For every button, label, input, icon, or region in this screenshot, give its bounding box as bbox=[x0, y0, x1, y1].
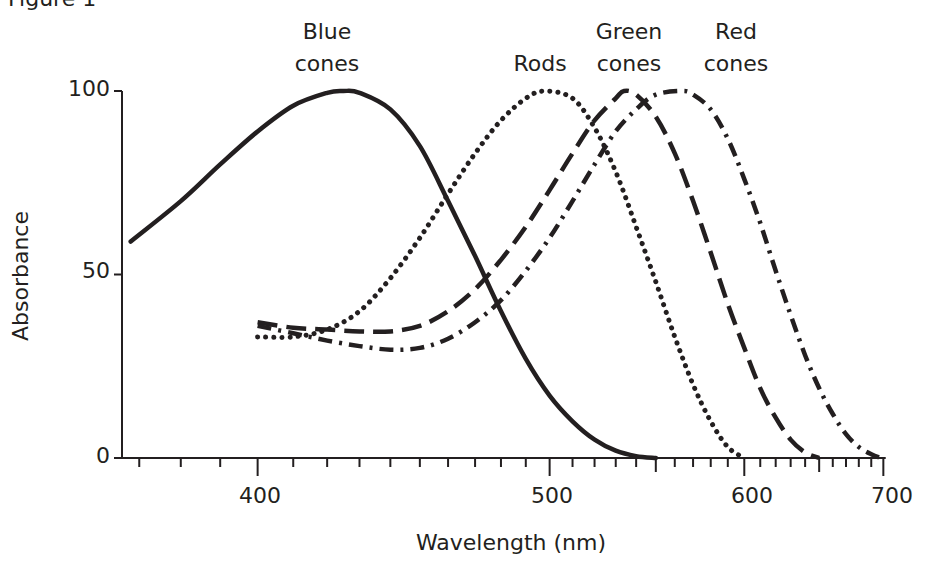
x-tick-label-600: 600 bbox=[722, 483, 782, 508]
y-tick-label-100: 100 bbox=[62, 76, 110, 101]
absorbance-chart bbox=[0, 0, 927, 577]
curve-green-cones bbox=[258, 91, 820, 458]
y-axis-title: Absorbance bbox=[8, 206, 36, 346]
curve-red-cones bbox=[258, 91, 881, 458]
x-tick-label-500: 500 bbox=[522, 483, 582, 508]
curves bbox=[131, 91, 881, 458]
axes bbox=[114, 91, 886, 476]
x-axis-title: Wavelength (nm) bbox=[380, 530, 642, 555]
label-blue-cones-line1: Blue bbox=[292, 18, 362, 46]
label-red-cones-line2: cones bbox=[696, 50, 776, 78]
label-green-cones-line1: Green bbox=[586, 18, 672, 46]
label-blue-cones-line2: cones bbox=[292, 50, 362, 78]
y-tick-label-50: 50 bbox=[62, 258, 110, 283]
label-rods: Rods bbox=[505, 50, 575, 78]
x-tick-label-700: 700 bbox=[862, 483, 922, 508]
y-tick-label-0: 0 bbox=[62, 443, 110, 468]
label-red-cones-line1: Red bbox=[696, 18, 776, 46]
label-green-cones-line2: cones bbox=[586, 50, 672, 78]
x-tick-label-400: 400 bbox=[230, 483, 290, 508]
